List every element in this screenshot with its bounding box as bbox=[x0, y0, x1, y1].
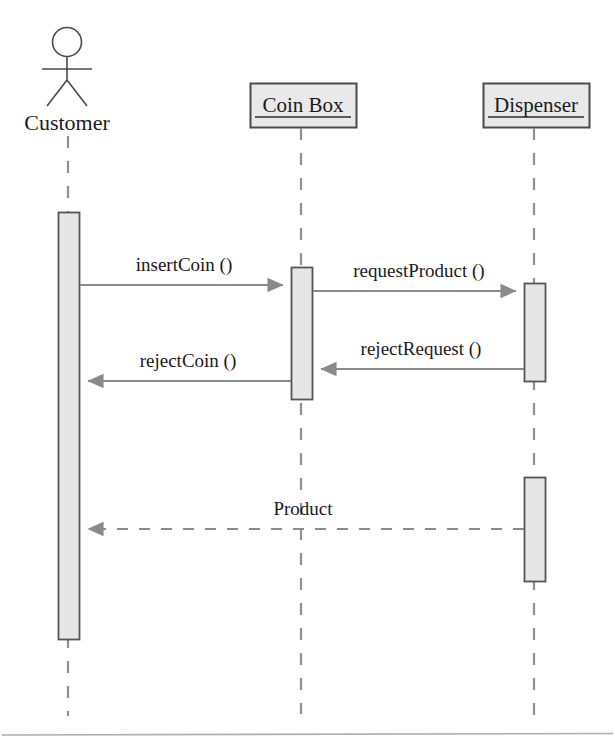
message-requestproduct: requestProduct () bbox=[313, 260, 516, 291]
participant-dispenser: Dispenser bbox=[484, 84, 590, 128]
sequence-diagram: Customer Coin Box Dispenser bbox=[0, 0, 615, 744]
message-requestproduct-label: requestProduct () bbox=[353, 260, 484, 282]
message-rejectcoin-label: rejectCoin () bbox=[140, 350, 237, 372]
activation-dispenser-2 bbox=[525, 478, 546, 582]
actor-customer: Customer bbox=[24, 28, 110, 136]
message-insertcoin-label: insertCoin () bbox=[136, 254, 233, 276]
lifelines-group bbox=[68, 128, 534, 716]
message-rejectrequest: rejectRequest () bbox=[321, 338, 524, 369]
activation-dispenser-1 bbox=[525, 284, 546, 382]
actor-customer-label: Customer bbox=[24, 110, 110, 135]
activation-coinbox bbox=[292, 268, 313, 400]
actor-head-icon bbox=[53, 28, 82, 57]
diagram-canvas: Customer Coin Box Dispenser bbox=[0, 0, 615, 744]
message-product-label: Product bbox=[273, 498, 333, 519]
footer-divider bbox=[2, 734, 613, 736]
actor-leg-left-line bbox=[47, 80, 67, 106]
participant-coinbox: Coin Box bbox=[251, 84, 357, 128]
message-insertcoin: insertCoin () bbox=[80, 254, 283, 285]
participant-dispenser-label: Dispenser bbox=[494, 93, 578, 117]
message-rejectrequest-label: rejectRequest () bbox=[361, 338, 482, 360]
activation-customer bbox=[59, 213, 80, 640]
actor-leg-right-line bbox=[67, 80, 87, 106]
message-rejectcoin: rejectCoin () bbox=[88, 350, 291, 381]
message-product: Product bbox=[88, 498, 524, 529]
participant-coinbox-label: Coin Box bbox=[262, 93, 344, 117]
